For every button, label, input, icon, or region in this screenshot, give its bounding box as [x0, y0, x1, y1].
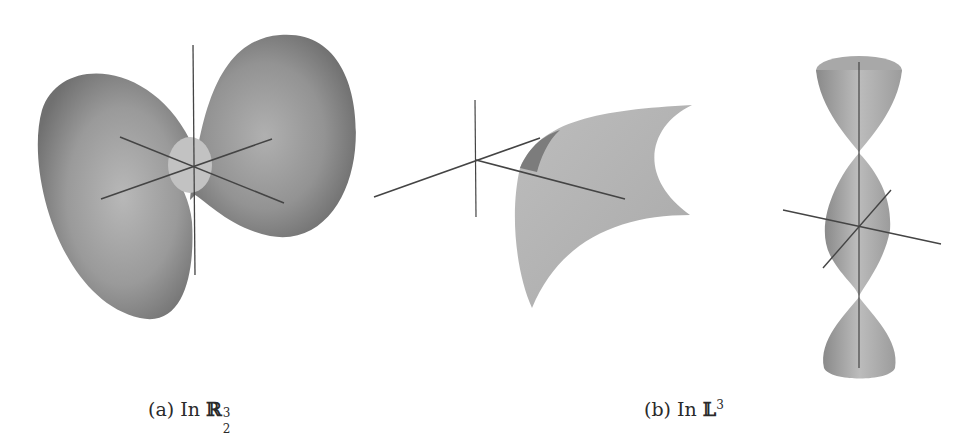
caption-b-superscript: 3 [716, 398, 724, 412]
caption-b-label: (b) [644, 398, 671, 420]
surface-plots [0, 0, 968, 448]
caption-a: (a) In ℝ32 [148, 398, 232, 420]
caption-a-superscript: 3 [223, 406, 231, 420]
surface-b2 [783, 56, 941, 379]
caption-a-space-symbol: ℝ [206, 398, 222, 420]
figure: (a) In ℝ32 (b) In 𝕃3 [0, 0, 968, 448]
caption-b-space-symbol: 𝕃 [703, 398, 716, 420]
caption-b-text: In [677, 398, 697, 420]
axis-x-b1 [374, 138, 540, 197]
caption-a-subscript: 2 [223, 422, 231, 436]
caption-b: (b) In 𝕃3 [644, 398, 724, 420]
surface-b1 [374, 100, 692, 308]
surface-a [38, 35, 356, 319]
caption-a-text: In [180, 398, 200, 420]
caption-a-label: (a) [148, 398, 174, 420]
axis-z-b1 [475, 100, 476, 217]
